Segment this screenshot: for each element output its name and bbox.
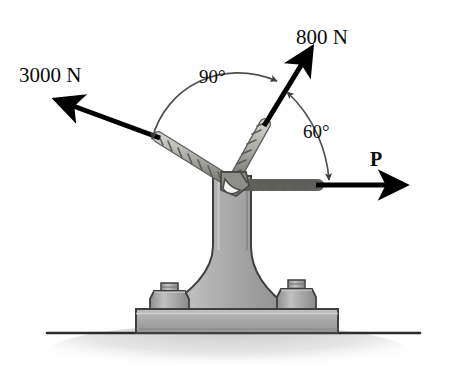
- rail-structure: [136, 176, 338, 333]
- bolt-right-nut: [277, 289, 316, 309]
- arrow-3000n: [57, 100, 160, 138]
- rope-800n: [232, 123, 265, 176]
- label-force-p: P: [370, 148, 382, 170]
- base-plate: [136, 309, 338, 333]
- bolt-left: [150, 283, 189, 309]
- rope-p: [240, 181, 318, 190]
- label-angle-60: 60°: [303, 121, 330, 142]
- diagram-canvas: 3000 N 800 N 90° 60° P: [0, 0, 451, 386]
- label-angle-90: 90°: [199, 66, 226, 87]
- bolt-right: [277, 280, 316, 309]
- bolt-left-nut: [150, 291, 189, 309]
- force-diagram-figure: 3000 N 800 N 90° 60° P: [0, 0, 451, 386]
- label-force-3000n: 3000 N: [19, 63, 81, 87]
- arrow-800n: [264, 49, 311, 126]
- rope-3000n: [158, 136, 227, 182]
- beam-web: [164, 176, 292, 309]
- label-force-800n: 800 N: [296, 25, 348, 49]
